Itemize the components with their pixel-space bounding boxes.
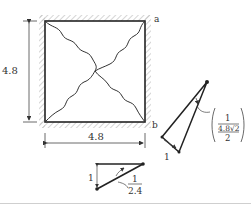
- bottom-fraction-denominator: 2.4: [128, 186, 143, 196]
- corner-label-b: b: [152, 120, 158, 130]
- bottom-triangle-vertical-label: 1: [88, 173, 94, 183]
- right-fraction-denominator-top: 4.8√2: [218, 124, 240, 133]
- width-label: 4.8: [88, 131, 104, 142]
- right-triangle-side-label: 1: [164, 152, 170, 162]
- height-label: 4.8: [2, 65, 18, 76]
- bottom-divider: [0, 203, 251, 204]
- right-fraction-numerator: 1: [225, 113, 230, 123]
- wavy-diagonals: [45, 21, 145, 122]
- right-fraction-denominator-bottom: 2: [225, 133, 230, 143]
- corner-label-a: a: [154, 14, 160, 24]
- slope-triangle-right: [161, 80, 245, 154]
- structure-diagram: a b 4.8 4.8 1 1 4.8√2 2: [0, 0, 251, 207]
- bottom-fraction-numerator: 1: [132, 174, 138, 184]
